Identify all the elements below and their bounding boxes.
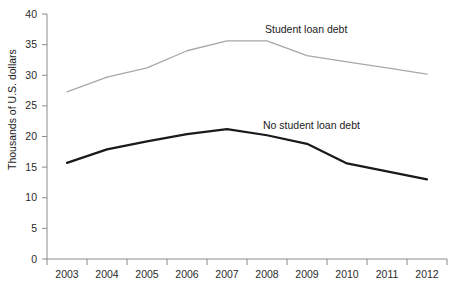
line-chart: Thousands of U.S. dollars 05101520253035… — [0, 0, 451, 290]
x-axis-ticks: 2003200420052006200720082009201020112012 — [47, 259, 447, 280]
x-tick-label: 2012 — [415, 268, 439, 280]
x-tick-label: 2009 — [295, 268, 319, 280]
y-tick-label: 5 — [31, 222, 37, 234]
series-label: No student loan debt — [263, 119, 360, 131]
x-tick-label: 2011 — [376, 268, 399, 280]
x-tick-label: 2003 — [55, 268, 79, 280]
series-annotations: Student loan debtNo student loan debt — [263, 23, 360, 131]
y-axis-ticks: 0510152025303540 — [25, 8, 47, 265]
x-tick-label: 2008 — [255, 268, 279, 280]
y-axis-title: Thousands of U.S. dollars — [6, 49, 18, 170]
y-tick-label: 35 — [25, 38, 37, 50]
x-tick-label: 2010 — [335, 268, 359, 280]
y-tick-label: 0 — [31, 253, 37, 265]
series-label: Student loan debt — [265, 23, 347, 35]
x-tick-label: 2004 — [95, 268, 119, 280]
series-line — [67, 41, 427, 92]
x-tick-label: 2006 — [175, 268, 199, 280]
y-tick-label: 40 — [25, 8, 37, 20]
chart-container: Thousands of U.S. dollars 05101520253035… — [0, 0, 451, 290]
series-line — [67, 129, 427, 179]
x-tick-label: 2007 — [215, 268, 239, 280]
y-tick-label: 10 — [25, 191, 37, 203]
y-tick-label: 20 — [25, 130, 37, 142]
series-lines — [67, 41, 427, 179]
y-tick-label: 15 — [25, 161, 37, 173]
x-tick-label: 2005 — [135, 268, 159, 280]
y-tick-label: 25 — [25, 99, 37, 111]
y-tick-label: 30 — [25, 69, 37, 81]
